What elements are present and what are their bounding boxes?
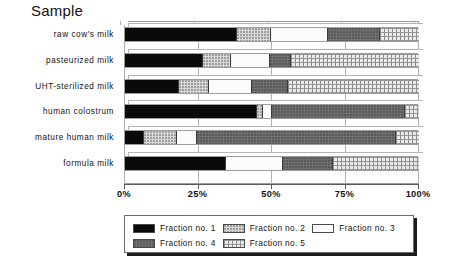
legend-item-2[interactable]: Fraction no. 2 <box>223 223 313 233</box>
x-tick-label-0: 0% <box>117 189 131 199</box>
legend-item-1[interactable]: Fraction no. 1 <box>133 223 223 233</box>
x-tick-label-2: 50% <box>261 189 280 199</box>
bar-segment-1 <box>125 54 202 67</box>
bar-segment-1 <box>125 157 225 170</box>
bar-segment-3 <box>230 54 269 67</box>
category-label-3: human colostrum <box>43 107 114 116</box>
legend-label-5: Fraction no. 5 <box>250 238 306 248</box>
bar-track <box>124 53 418 68</box>
bar-segment-5 <box>332 157 419 170</box>
bar-track <box>124 156 418 171</box>
category-label-0: raw cow's milk <box>54 30 114 39</box>
bar-segment-5 <box>290 54 419 67</box>
bar-segment-3 <box>208 80 252 93</box>
bar-segment-5 <box>404 105 419 118</box>
bar-track <box>124 104 418 119</box>
bar-segment-4 <box>196 131 396 144</box>
bar-segment-1 <box>125 28 236 41</box>
legend-label-2: Fraction no. 2 <box>250 223 306 233</box>
bar-segment-2 <box>236 28 270 41</box>
bar-track <box>124 27 418 42</box>
x-tick-label-3: 75% <box>335 189 354 199</box>
gridline-top-cap <box>120 21 121 25</box>
bar-segment-2 <box>143 131 176 144</box>
legend-row-2: Fraction no. 4Fraction no. 5 <box>133 238 312 248</box>
bar-segment-3 <box>225 157 282 170</box>
bar-segment-5 <box>395 131 419 144</box>
chart-title: Sample <box>31 2 83 19</box>
bar-segment-5 <box>287 80 419 93</box>
legend-swatch-3 <box>312 224 334 233</box>
x-tick-label-4: 100% <box>406 189 431 199</box>
bar-segment-3 <box>176 131 196 144</box>
bar-segment-4 <box>271 105 404 118</box>
legend-swatch-4 <box>133 239 155 248</box>
bar-segment-3 <box>270 28 327 41</box>
bar-segment-5 <box>379 28 419 41</box>
legend-item-5[interactable]: Fraction no. 5 <box>223 238 313 248</box>
bar-segment-4 <box>327 28 379 41</box>
category-label-2: UHT-sterilized milk <box>35 82 114 91</box>
bar-segment-4 <box>251 80 286 93</box>
bar-row <box>124 27 418 42</box>
bar-segment-1 <box>125 105 256 118</box>
frame-top-edge <box>128 21 419 22</box>
bar-row <box>124 79 418 94</box>
bar-row <box>124 104 418 119</box>
legend-box: Fraction no. 1Fraction no. 2Fraction no.… <box>124 215 414 253</box>
x-tick-label-1: 25% <box>188 189 207 199</box>
bar-segment-1 <box>125 131 143 144</box>
bar-segment-2 <box>202 54 230 67</box>
category-label-4: mature human milk <box>35 133 114 142</box>
legend-swatch-2 <box>223 224 245 233</box>
legend-label-1: Fraction no. 1 <box>160 223 216 233</box>
bar-segment-4 <box>282 157 332 170</box>
bar-segment-2 <box>178 80 208 93</box>
bar-row <box>124 156 418 171</box>
legend-item-3[interactable]: Fraction no. 3 <box>312 223 402 233</box>
category-label-5: formula milk <box>63 159 114 168</box>
bar-segment-1 <box>125 80 178 93</box>
bar-track <box>124 130 418 145</box>
legend-label-3: Fraction no. 3 <box>339 223 395 233</box>
bar-row <box>124 130 418 145</box>
legend-item-4[interactable]: Fraction no. 4 <box>133 238 223 248</box>
bar-segment-3 <box>262 105 271 118</box>
bar-row <box>124 53 418 68</box>
stacked-bar-chart: Sample raw cow's milkpasteurized milkUHT… <box>0 0 450 260</box>
legend-row-1: Fraction no. 1Fraction no. 2Fraction no.… <box>133 223 402 233</box>
bar-segment-4 <box>269 54 290 67</box>
legend-label-4: Fraction no. 4 <box>160 238 216 248</box>
legend-swatch-5 <box>223 239 245 248</box>
bar-track <box>124 79 418 94</box>
legend-swatch-1 <box>133 224 155 233</box>
category-label-1: pasteurized milk <box>46 56 114 65</box>
